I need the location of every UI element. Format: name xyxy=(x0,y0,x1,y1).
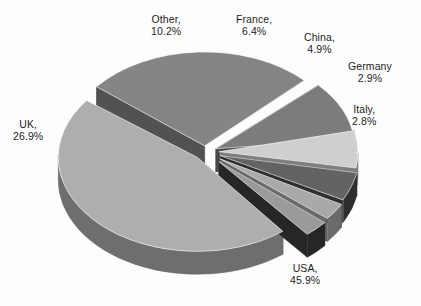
pie-label-name-france: France, xyxy=(236,13,272,25)
pie-slice-tops xyxy=(58,52,358,251)
pie-label-value-france: 6.4% xyxy=(236,25,272,37)
pie-label-name-germany: Germany xyxy=(348,60,392,72)
pie-label-name-china: China, xyxy=(304,31,335,43)
pie-label-value-uk: 26.9% xyxy=(13,130,43,142)
pie-label-value-usa: 45.9% xyxy=(290,274,320,286)
pie-chart-graphic xyxy=(0,0,421,306)
pie-label-china: China,4.9% xyxy=(304,31,335,56)
pie-label-name-italy: Italy, xyxy=(352,103,376,115)
pie-label-usa: USA,45.9% xyxy=(290,262,320,287)
pie-label-italy: Italy,2.8% xyxy=(352,103,376,128)
pie-label-name-usa: USA, xyxy=(290,262,320,274)
pie-label-germany: Germany2.9% xyxy=(348,60,392,85)
pie-label-france: France,6.4% xyxy=(236,13,272,38)
pie-label-value-china: 4.9% xyxy=(304,43,335,55)
pie-label-uk: UK,26.9% xyxy=(13,118,43,143)
pie-label-name-uk: UK, xyxy=(13,118,43,130)
pie-label-other: Other,10.2% xyxy=(151,13,181,38)
pie-label-value-germany: 2.9% xyxy=(348,72,392,84)
pie-label-name-other: Other, xyxy=(151,13,181,25)
pie-label-value-italy: 2.8% xyxy=(352,115,376,127)
pie-chart-figure: France,6.4%China,4.9%Germany2.9%Italy,2.… xyxy=(0,0,421,306)
pie-label-value-other: 10.2% xyxy=(151,25,181,37)
